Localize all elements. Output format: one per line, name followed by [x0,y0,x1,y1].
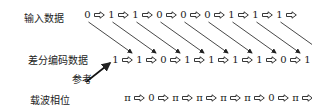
diagonal-arrow-icon [257,22,301,53]
diagonal-arrow-icon [113,22,157,53]
diagonal-arrow-icon [209,22,253,53]
diagonal-arrow-icon [281,22,313,53]
diagonal-arrow-icon [137,22,181,53]
diagonal-arrow-icon [185,22,229,53]
diagonal-arrow-icon [89,22,313,53]
reference-arrow-icon [86,63,110,82]
diagonal-arrow-icon [233,22,277,53]
diagonal-arrow-icon [89,22,133,53]
diagonal-arrow-icon [161,22,205,53]
arrows-overlay [0,0,312,112]
